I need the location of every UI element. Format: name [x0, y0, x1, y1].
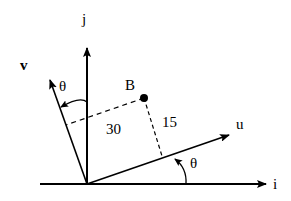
label-theta-top: θ [59, 78, 66, 94]
label-point-b: B [125, 77, 135, 93]
v-axis [50, 80, 87, 184]
label-v: v [20, 57, 28, 73]
rotated-axes-diagram: i j u v B θ θ 30 15 [0, 0, 291, 201]
label-theta-bottom: θ [190, 155, 197, 171]
label-i: i [273, 176, 277, 192]
projection-to-v [66, 98, 144, 125]
theta-arc-top [61, 100, 87, 107]
label-j: j [81, 11, 86, 27]
projection-to-u [144, 98, 162, 156]
label-u: u [236, 116, 244, 132]
u-axis [87, 135, 229, 184]
label-distance-30: 30 [106, 121, 121, 137]
label-distance-15: 15 [162, 114, 177, 130]
point-b [140, 94, 148, 102]
theta-arc-bottom [175, 159, 186, 184]
